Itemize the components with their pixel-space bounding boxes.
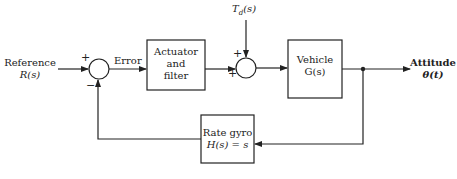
vehicle-label-line2: G(s): [288, 66, 342, 78]
reference-label: Reference R(s): [2, 57, 58, 81]
feedback-path-left: [98, 80, 201, 139]
vehicle-label-line1: Vehicle: [288, 54, 342, 66]
reference-label-line2: R(s): [2, 69, 58, 81]
block-diagram: [0, 0, 457, 179]
attitude-label-line2: θ(t): [410, 69, 456, 81]
junction2-plus-top-sign: +: [233, 48, 242, 59]
disturbance-main: T: [232, 3, 239, 14]
junction2-plus-left-sign: +: [228, 68, 237, 79]
actuator-label-line3: filter: [147, 70, 205, 82]
disturbance-arg: (s): [243, 3, 256, 14]
attitude-label: Attitude θ(t): [410, 57, 456, 81]
summing-junction-1: [89, 59, 109, 79]
junction1-plus-sign: +: [81, 52, 90, 63]
reference-label-line1: Reference: [2, 57, 58, 69]
rate-gyro-label-line2: H(s) = s: [201, 139, 254, 151]
rate-gyro-label-line1: Rate gyro: [201, 127, 254, 139]
rate-gyro-block-label: Rate gyro H(s) = s: [201, 127, 254, 151]
junction1-minus-sign: −: [86, 80, 95, 91]
actuator-label-line1: Actuator: [147, 46, 205, 58]
summing-junction-2: [236, 58, 256, 78]
error-label: Error: [114, 55, 142, 67]
vehicle-block-label: Vehicle G(s): [288, 54, 342, 78]
attitude-label-line1: Attitude: [410, 57, 456, 69]
feedback-path-right: [255, 69, 363, 144]
disturbance-label: Td(s): [232, 3, 256, 19]
branch-point: [361, 67, 365, 71]
actuator-label-line2: and: [147, 58, 205, 70]
actuator-block-label: Actuator and filter: [147, 46, 205, 82]
